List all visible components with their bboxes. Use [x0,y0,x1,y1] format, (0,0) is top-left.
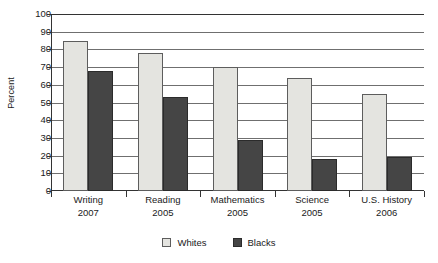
legend-label: Blacks [248,237,276,248]
y-axis-ticks: 1009080706050403020100 [0,14,51,191]
y-tick-label-80: 80 [9,45,51,55]
x-axis-label-year: 2005 [126,207,201,220]
x-axis-label-mathematics: Mathematics2005 [200,194,275,219]
bar-blacks-science [312,159,337,191]
x-axis-label-year: 2007 [51,207,126,220]
y-tick-label-10: 10 [9,169,51,179]
bar-whites-writing [63,41,88,191]
bar-whites-science [287,78,312,191]
bar-blacks-mathematics [238,140,263,191]
x-axis-label-subject: Science [295,194,329,205]
legend-swatch-whites [162,238,171,247]
legend-label: Whites [177,237,206,248]
legend-item-blacks: Blacks [233,237,276,248]
bars-layer [51,14,424,191]
x-axis-label-subject: Mathematics [211,194,265,205]
y-tick-label-90: 90 [9,27,51,37]
bar-whites-mathematics [213,67,238,191]
legend-item-whites: Whites [162,237,206,248]
x-axis-separator-tick [51,191,52,197]
y-tick-label-40: 40 [9,115,51,125]
bar-whites-u-s-history [362,94,387,191]
bar-blacks-reading [163,97,188,191]
y-tick-label-60: 60 [9,80,51,90]
y-tick-label-30: 30 [9,133,51,143]
x-axis-label-subject: Reading [145,194,180,205]
x-axis-label-science: Science2005 [275,194,350,219]
legend-swatch-blacks [233,238,242,247]
bar-chart: Percent 1009080706050403020100 Writing20… [0,0,438,263]
x-axis-label-year: 2005 [200,207,275,220]
x-axis-label-writing: Writing2007 [51,194,126,219]
x-axis-label-year: 2006 [349,207,424,220]
bar-whites-reading [138,53,163,191]
x-axis-label-subject: Writing [74,194,103,205]
y-tick-label-70: 70 [9,62,51,72]
y-tick-label-20: 20 [9,151,51,161]
y-tick-label-100: 100 [9,9,51,19]
bar-blacks-u-s-history [387,157,412,191]
chart-legend: WhitesBlacks [0,237,438,248]
y-tick-label-0: 0 [9,186,51,196]
y-tick-label-50: 50 [9,98,51,108]
x-axis-label-year: 2005 [275,207,350,220]
bar-blacks-writing [88,71,113,191]
x-axis-label-u-s-history: U.S. History2006 [349,194,424,219]
x-axis-separator-tick [424,191,425,197]
x-axis-label-subject: U.S. History [361,194,412,205]
x-axis-label-reading: Reading2005 [126,194,201,219]
